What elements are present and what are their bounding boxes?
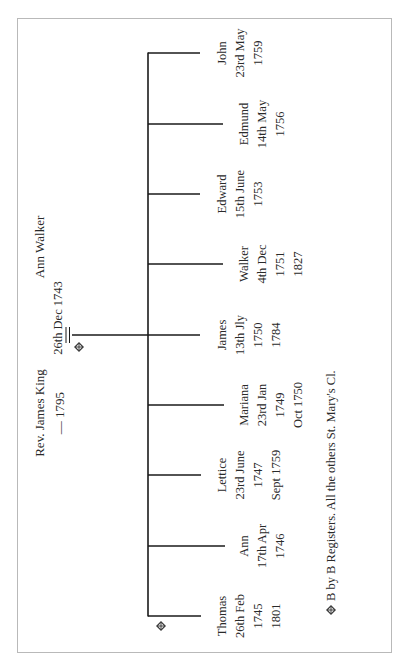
svg-text:17th Apr: 17th Apr bbox=[255, 523, 269, 568]
svg-text:Lettice: Lettice bbox=[215, 457, 229, 492]
svg-text:Rev. James King: Rev. James King bbox=[32, 369, 47, 457]
svg-text:1751: 1751 bbox=[273, 252, 287, 277]
svg-text:1827: 1827 bbox=[291, 252, 305, 277]
svg-text:Walker: Walker bbox=[237, 245, 251, 282]
child-label-edward: Edward 15th June 1753 bbox=[215, 169, 265, 218]
svg-text:1801: 1801 bbox=[269, 604, 283, 629]
svg-text:14th May: 14th May bbox=[255, 99, 269, 148]
child-label-james: James 13th Jly 1750 1784 bbox=[215, 314, 283, 355]
diamond-cross-icon bbox=[156, 621, 166, 631]
svg-text:1784: 1784 bbox=[269, 322, 283, 348]
mother-label: Ann Walker bbox=[32, 215, 47, 278]
svg-text:23rd Jan: 23rd Jan bbox=[255, 383, 269, 426]
svg-text:— 1795: — 1795 bbox=[52, 392, 67, 435]
diamond-cross-icon bbox=[326, 605, 336, 615]
svg-text:1759: 1759 bbox=[251, 41, 265, 66]
svg-text:Ann Walker: Ann Walker bbox=[32, 215, 47, 278]
svg-text:1746: 1746 bbox=[273, 534, 287, 559]
svg-text:Edward: Edward bbox=[215, 174, 229, 214]
father-label: Rev. James King — 1795 bbox=[32, 369, 67, 457]
svg-text:B by B Registers. All the othe: B by B Registers. All the others St. Mar… bbox=[324, 370, 338, 601]
svg-text:26th Feb: 26th Feb bbox=[233, 594, 247, 638]
child-label-thomas: Thomas 26th Feb 1745 1801 bbox=[215, 594, 283, 638]
family-tree-diagram: Rev. James King — 1795 Ann Walker 26th D… bbox=[0, 0, 407, 670]
svg-text:Mariana: Mariana bbox=[237, 384, 251, 426]
svg-text:1747: 1747 bbox=[251, 463, 265, 488]
svg-text:23rd June: 23rd June bbox=[233, 450, 247, 499]
svg-text:James: James bbox=[215, 320, 229, 351]
svg-text:Oct 1750: Oct 1750 bbox=[291, 382, 305, 428]
svg-text:Sept 1759: Sept 1759 bbox=[269, 450, 283, 500]
svg-text:23rd May: 23rd May bbox=[233, 28, 247, 78]
svg-text:1745: 1745 bbox=[251, 604, 265, 629]
child-label-lettice: Lettice 23rd June 1747 Sept 1759 bbox=[215, 450, 283, 500]
footnote: B by B Registers. All the others St. Mar… bbox=[324, 370, 338, 601]
svg-text:26th Dec 1743: 26th Dec 1743 bbox=[51, 281, 65, 355]
svg-text:1756: 1756 bbox=[273, 112, 287, 137]
svg-text:1749: 1749 bbox=[273, 393, 287, 418]
svg-text:Edmund: Edmund bbox=[237, 102, 251, 145]
svg-text:1750: 1750 bbox=[251, 323, 265, 348]
child-label-mariana: Mariana 23rd Jan 1749 Oct 1750 bbox=[237, 382, 305, 428]
svg-text:1753: 1753 bbox=[251, 182, 265, 207]
svg-text:15th June: 15th June bbox=[233, 169, 247, 218]
svg-text:Ann: Ann bbox=[237, 534, 251, 556]
svg-text:Thomas: Thomas bbox=[215, 596, 229, 636]
diamond-cross-icon bbox=[74, 342, 84, 352]
family-tree-page: Rev. James King — 1795 Ann Walker 26th D… bbox=[0, 0, 407, 670]
svg-text:4th Dec: 4th Dec bbox=[255, 244, 269, 284]
child-branches bbox=[148, 53, 225, 616]
child-label-ann: Ann 17th Apr 1746 bbox=[237, 523, 287, 568]
svg-text:13th Jly: 13th Jly bbox=[233, 314, 247, 355]
svg-text:John: John bbox=[215, 40, 229, 64]
child-label-john: John 23rd May 1759 bbox=[215, 28, 265, 78]
child-label-edmund: Edmund 14th May 1756 bbox=[237, 99, 287, 148]
child-label-walker: Walker 4th Dec 1751 1827 bbox=[237, 244, 305, 284]
marriage-date: 26th Dec 1743 bbox=[51, 281, 65, 355]
